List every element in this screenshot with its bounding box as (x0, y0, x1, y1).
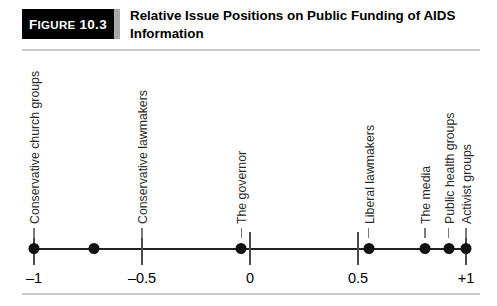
figure-badge-number: 10.3 (79, 17, 106, 32)
figure-header: FIGURE 10.3 Relative Issue Positions on … (0, 0, 497, 52)
figure-title: Relative Issue Positions on Public Fundi… (130, 7, 480, 43)
figure-container: FIGURE 10.3 Relative Issue Positions on … (0, 0, 497, 306)
category-label: Conservative lawmakers (137, 90, 149, 224)
axis-tick-mark (249, 232, 251, 265)
category-label: Conservative church groups (29, 71, 41, 224)
figure-badge-word-rest: IGURE (38, 19, 76, 31)
category-label-stem (465, 228, 466, 238)
header-divider-rule (22, 49, 480, 51)
data-point-marker (89, 243, 100, 254)
category-label: Public health groups (444, 113, 456, 224)
axis-tick-label: –1 (26, 270, 42, 286)
figure-badge-word: FIGURE (29, 17, 75, 32)
figure-badge-accent-bar (114, 9, 120, 39)
figure-badge-text: FIGURE 10.3 (29, 17, 107, 32)
category-label-stem (368, 228, 369, 238)
data-point-marker (461, 243, 472, 254)
axis-tick-mark (357, 232, 359, 265)
number-line-plot: –1–0.500.5+1 Conservative church groupsC… (0, 52, 497, 306)
data-point-marker (363, 243, 374, 254)
figure-number-badge: FIGURE 10.3 (22, 9, 114, 39)
category-label-stem (424, 228, 425, 238)
category-label-stem (448, 228, 449, 238)
data-point-marker (443, 243, 454, 254)
data-point-marker (29, 243, 40, 254)
category-label: The media (420, 166, 432, 224)
axis-tick-label: –0.5 (128, 270, 156, 286)
category-label: The governor (236, 151, 248, 224)
axis-tick-label: 0.5 (348, 270, 368, 286)
category-label: Activist groups (461, 144, 473, 224)
category-label-stem (141, 228, 142, 238)
category-label-stem (33, 228, 34, 238)
axis-tick-label: +1 (458, 270, 475, 286)
footer-divider-rule (22, 293, 480, 295)
data-point-marker (419, 243, 430, 254)
data-point-marker (236, 243, 247, 254)
category-label-stem (241, 228, 242, 238)
category-label: Liberal lawmakers (364, 125, 376, 224)
figure-badge-word-initial: F (29, 17, 38, 32)
axis-tick-label: 0 (246, 270, 254, 286)
